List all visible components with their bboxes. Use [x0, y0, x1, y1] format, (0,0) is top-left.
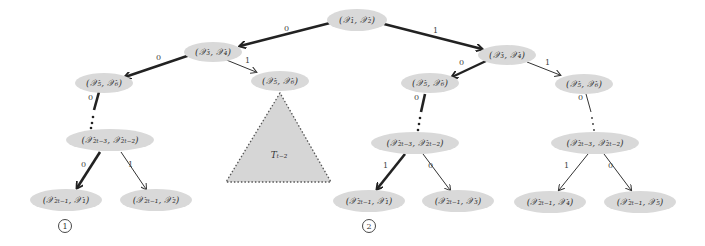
svg-text:(𝒳₂ₜ₋₃, 𝒳₂ₜ₋₂): (𝒳₂ₜ₋₃, 𝒳₂ₜ₋₂) — [81, 135, 139, 145]
svg-text:(𝒳₅, 𝒳₆): (𝒳₅, 𝒳₆) — [412, 78, 448, 88]
edge-label-r3b-leaf5: 1 — [564, 161, 569, 170]
path-marker-2: 2 — [363, 220, 376, 233]
edge-r2a-r3a — [421, 94, 425, 112]
node-l1: (𝒳₃, 𝒳₄) — [184, 42, 242, 62]
node-leaf5: (𝒳₂ₜ₋₁, 𝒳₄) — [514, 191, 586, 213]
edge-label-r3a-leaf3: 1 — [383, 161, 388, 170]
svg-text:2: 2 — [366, 222, 371, 231]
edge-l3-leaf1 — [77, 152, 100, 188]
node-r2a: (𝒳₅, 𝒳₆) — [401, 73, 459, 93]
decision-tree-diagram: 0 1 0 1 0 1 0 0 0 0 1 1 0 1 0 Tₜ₋₂ (𝒳₁, … — [0, 0, 705, 246]
edge-label-r3a-leaf4: 0 — [428, 161, 433, 170]
nodes: (𝒳₁, 𝒳₂) (𝒳₃, 𝒳₄) (𝒳₃, 𝒳₄) (𝒳₅, 𝒳₆) (𝒳₅,… — [30, 9, 676, 213]
svg-text:(𝒳₅, 𝒳₆): (𝒳₅, 𝒳₆) — [86, 78, 122, 88]
edge-label-r2a-r3a: 0 — [414, 93, 419, 102]
svg-text:(𝒳₅, 𝒳₆): (𝒳₅, 𝒳₆) — [566, 79, 602, 89]
svg-text:(𝒳₅, 𝒳₆): (𝒳₅, 𝒳₆) — [262, 76, 298, 86]
edge-r3a-leaf4 — [423, 154, 450, 190]
svg-text:(𝒳₂ₜ₋₁, 𝒳₅): (𝒳₂ₜ₋₁, 𝒳₅) — [617, 197, 664, 207]
subtree-label: Tₜ₋₂ — [271, 150, 288, 160]
node-l2b: (𝒳₅, 𝒳₆) — [251, 71, 309, 91]
edge-label-r3b-leaf6: 0 — [608, 161, 613, 170]
edge-r1-r2a — [452, 61, 486, 77]
node-leaf2: (𝒳₂ₜ₋₁, 𝒳₂) — [120, 189, 192, 211]
edge-label-l1-l2a: 0 — [156, 53, 161, 62]
edge-label-root-l1: 0 — [284, 24, 289, 33]
svg-text:(𝒳₂ₜ₋₁, 𝒳₁): (𝒳₂ₜ₋₁, 𝒳₁) — [43, 195, 90, 205]
node-l3: (𝒳₂ₜ₋₃, 𝒳₂ₜ₋₂) — [66, 129, 154, 151]
svg-text:(𝒳₁, 𝒳₂): (𝒳₁, 𝒳₂) — [339, 15, 375, 25]
node-root: (𝒳₁, 𝒳₂) — [327, 9, 387, 31]
edge-label-root-r1: 1 — [433, 26, 438, 35]
edge-label-l2a-l3: 0 — [88, 93, 93, 102]
edge-r1-r2b — [527, 62, 560, 75]
svg-text:(𝒳₂ₜ₋₃, 𝒳₂ₜ₋₂): (𝒳₂ₜ₋₃, 𝒳₂ₜ₋₂) — [566, 138, 624, 148]
edges — [77, 23, 631, 190]
edge-l3-leaf2 — [121, 152, 146, 189]
node-leaf1: (𝒳₂ₜ₋₁, 𝒳₁) — [30, 189, 102, 211]
svg-text:(𝒳₂ₜ₋₁, 𝒳₁): (𝒳₂ₜ₋₁, 𝒳₁) — [346, 196, 393, 206]
svg-text:(𝒳₂ₜ₋₁, 𝒳₂): (𝒳₂ₜ₋₁, 𝒳₂) — [133, 195, 180, 205]
edge-l2a-l3 — [94, 92, 99, 110]
edge-label-r1-r2b: 1 — [545, 58, 550, 67]
node-leaf6: (𝒳₂ₜ₋₁, 𝒳₅) — [604, 191, 676, 213]
node-r2b: (𝒳₅, 𝒳₆) — [555, 74, 613, 94]
node-l2a: (𝒳₅, 𝒳₆) — [75, 73, 133, 93]
path-marker-1: 1 — [59, 220, 72, 233]
edge-r3a-leaf3 — [377, 154, 405, 189]
edge-label-l3-leaf1: 0 — [81, 160, 86, 169]
edge-label-l1-l2b: 1 — [245, 56, 250, 65]
edge-r3b-leaf5 — [559, 154, 588, 190]
svg-text:(𝒳₃, 𝒳₄): (𝒳₃, 𝒳₄) — [195, 47, 231, 57]
svg-text:(𝒳₂ₜ₋₃, 𝒳₂ₜ₋₂): (𝒳₂ₜ₋₃, 𝒳₂ₜ₋₂) — [386, 138, 444, 148]
svg-text:(𝒳₂ₜ₋₁, 𝒳₃): (𝒳₂ₜ₋₁, 𝒳₃) — [435, 196, 482, 206]
edge-l1-l2b — [224, 59, 256, 72]
node-r3a: (𝒳₂ₜ₋₃, 𝒳₂ₜ₋₂) — [371, 132, 459, 154]
svg-text:1: 1 — [62, 222, 67, 231]
edge-label-r1-r2a: 0 — [459, 58, 464, 67]
node-leaf3: (𝒳₂ₜ₋₁, 𝒳₁) — [333, 190, 405, 212]
svg-text:(𝒳₂ₜ₋₁, 𝒳₄): (𝒳₂ₜ₋₁, 𝒳₄) — [527, 197, 574, 207]
edge-label-r2b-r3b: 0 — [578, 93, 583, 102]
node-leaf4: (𝒳₂ₜ₋₁, 𝒳₃) — [422, 190, 494, 212]
node-r3b: (𝒳₂ₜ₋₃, 𝒳₂ₜ₋₂) — [551, 132, 639, 154]
node-r1: (𝒳₃, 𝒳₄) — [478, 45, 536, 65]
subtree-triangle: Tₜ₋₂ — [226, 93, 331, 182]
edge-r2b-r3b — [586, 94, 591, 112]
edge-label-l3-leaf2: 1 — [128, 160, 133, 169]
edge-r3b-leaf6 — [604, 154, 631, 190]
svg-text:(𝒳₃, 𝒳₄): (𝒳₃, 𝒳₄) — [489, 50, 525, 60]
edge-labels: 0 1 0 1 0 1 0 0 0 0 1 1 0 1 0 — [81, 24, 613, 170]
